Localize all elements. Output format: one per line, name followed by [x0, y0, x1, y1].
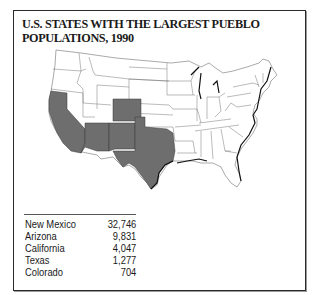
state-new-mexico [109, 123, 135, 151]
population-value: 1,277 [113, 255, 136, 267]
table-row: California 4,047 [25, 243, 136, 255]
us-states-map [14, 11, 305, 211]
table-rule [24, 214, 136, 215]
state-name: California [25, 243, 65, 255]
state-name: New Mexico [25, 219, 76, 231]
population-value: 32,746 [108, 219, 137, 231]
table-row: Colorado 704 [25, 267, 136, 279]
figure-frame: U.S. STATES WITH THE LARGEST PUEBLO POPU… [13, 10, 306, 291]
state-name: Texas [25, 255, 49, 267]
population-value: 4,047 [113, 243, 136, 255]
state-name: Arizona [25, 231, 57, 243]
table-row: Arizona 9,831 [25, 231, 136, 243]
population-value: 9,831 [113, 231, 136, 243]
state-name: Colorado [25, 267, 63, 279]
table-row: Texas 1,277 [25, 255, 136, 267]
population-table: New Mexico 32,746 Arizona 9,831 Californ… [25, 219, 128, 279]
population-value: 704 [121, 267, 137, 279]
table-row: New Mexico 32,746 [25, 219, 136, 231]
